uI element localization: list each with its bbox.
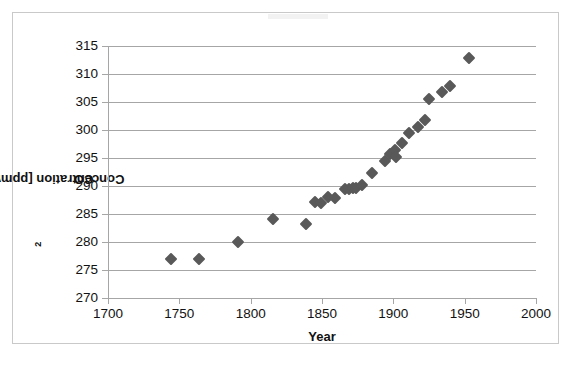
x-axis-tick-label: 1700	[73, 307, 143, 321]
x-axis-tick-label: 1900	[358, 307, 428, 321]
plot-area	[108, 46, 536, 298]
gridline-y	[108, 130, 536, 131]
gridline-y	[108, 102, 536, 103]
y-axis-tick-label: 295	[38, 151, 98, 165]
x-axis-tick	[393, 298, 394, 304]
y-axis-tick	[102, 46, 108, 47]
gridline-y	[108, 270, 536, 271]
gridline-y	[108, 186, 536, 187]
y-axis-tick-label: 290	[38, 179, 98, 193]
x-axis-tick	[465, 298, 466, 304]
x-axis-tick	[322, 298, 323, 304]
y-axis-tick-label: 300	[38, 123, 98, 137]
x-axis-tick	[251, 298, 252, 304]
y-axis-tick	[102, 74, 108, 75]
x-axis-tick	[536, 298, 537, 304]
data-point	[366, 166, 379, 179]
gridline-y	[108, 214, 536, 215]
y-axis-tick-label: 280	[38, 235, 98, 249]
y-axis-tick	[102, 270, 108, 271]
gridline-y	[108, 46, 536, 47]
data-point	[231, 236, 244, 249]
x-axis-tick-label: 2000	[501, 307, 571, 321]
gridline-y	[108, 158, 536, 159]
y-axis-tick	[102, 186, 108, 187]
data-point	[193, 253, 206, 266]
y-axis-tick-label: 285	[38, 207, 98, 221]
y-axis-tick-label: 310	[38, 67, 98, 81]
x-axis-tick-label: 1750	[144, 307, 214, 321]
x-axis-tick-label: 1950	[430, 307, 500, 321]
y-axis-tick	[102, 130, 108, 131]
y-axis-tick-label: 315	[38, 39, 98, 53]
data-point	[164, 252, 177, 265]
y-axis-tick-labels: 270275280285290295300305310315	[37, 13, 98, 345]
x-axis-title: Year	[108, 329, 536, 344]
x-axis-tick-label: 1800	[216, 307, 286, 321]
gridline-y	[108, 242, 536, 243]
scan-artifact	[268, 14, 328, 19]
data-point	[300, 217, 313, 230]
data-point	[463, 51, 476, 64]
y-axis-tick-label: 305	[38, 95, 98, 109]
y-axis-tick	[102, 214, 108, 215]
data-point	[423, 93, 436, 106]
x-axis-tick	[108, 298, 109, 304]
y-axis-tick-label: 275	[38, 263, 98, 277]
y-axis-tick	[102, 158, 108, 159]
chart-frame: CO2 Concentration [ppmv] 270275280285290…	[12, 12, 559, 344]
y-axis-tick	[102, 242, 108, 243]
x-axis-tick	[179, 298, 180, 304]
y-axis-tick	[102, 102, 108, 103]
x-axis-tick-label: 1850	[287, 307, 357, 321]
gridline-y	[108, 74, 536, 75]
y-axis-tick-label: 270	[38, 291, 98, 305]
